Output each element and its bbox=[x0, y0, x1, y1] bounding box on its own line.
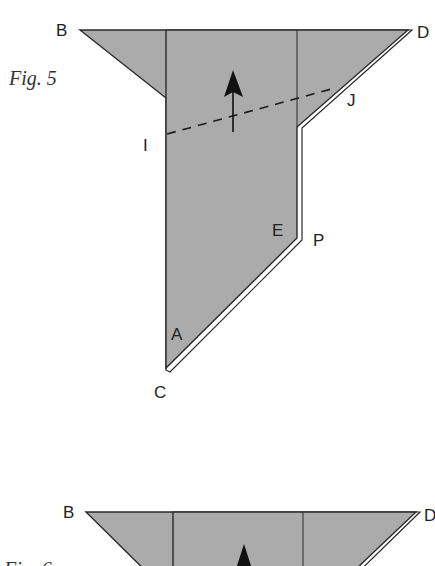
point-label-e: E bbox=[272, 221, 283, 240]
paper-shape-fig6 bbox=[86, 512, 416, 566]
figure-caption-6: Fig. 6 bbox=[3, 558, 52, 566]
figure-6: B D Fig. 6 bbox=[3, 503, 435, 566]
point-label-j: J bbox=[347, 91, 356, 110]
figure-caption-5: Fig. 5 bbox=[8, 67, 57, 90]
point-label-p: P bbox=[313, 231, 324, 250]
point-label-c: C bbox=[154, 383, 166, 402]
point-label-a: A bbox=[171, 325, 183, 344]
figure-5: B D I J E P A C Fig. 5 bbox=[8, 21, 429, 402]
point-label-d: D bbox=[417, 23, 429, 42]
origami-diagram: B D I J E P A C Fig. 5 B D Fig. 6 bbox=[0, 0, 435, 566]
paper-shape-fig5 bbox=[80, 30, 408, 368]
point-label-b: B bbox=[56, 21, 67, 40]
point-label-i: I bbox=[143, 136, 148, 155]
point-label-d-fig6: D bbox=[424, 506, 435, 525]
point-label-b-fig6: B bbox=[63, 503, 74, 522]
